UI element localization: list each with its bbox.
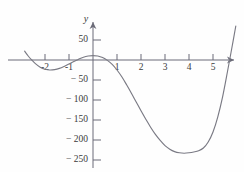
chart-figure: -2 -1 1 2 3 4 5 50 − 50 − 100 − 150 − 20… [0,0,244,172]
x-tick-label-4: 4 [187,62,192,72]
y-axis-label: y [83,13,89,24]
data-curve [25,26,236,153]
y-tick-marks [93,40,101,160]
y-tick-label--250: − 250 [66,154,88,164]
x-tick-marks [45,54,213,60]
plot-area: -2 -1 1 2 3 4 5 50 − 50 − 100 − 150 − 20… [0,0,244,172]
x-tick-label--2: -2 [41,62,49,72]
y-tick-label--150: − 150 [66,114,88,124]
y-tick-label--100: − 100 [66,94,88,104]
y-tick-label--200: − 200 [66,134,88,144]
x-tick-label-2: 2 [139,62,144,72]
x-tick-label-5: 5 [211,62,216,72]
x-tick-label-3: 3 [163,62,168,72]
y-tick-label--50: − 50 [71,74,88,84]
y-tick-label-50: 50 [79,34,89,44]
